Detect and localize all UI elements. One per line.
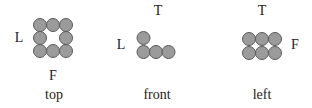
ball <box>269 47 282 60</box>
ball <box>256 33 269 46</box>
ball <box>34 32 47 45</box>
ball <box>137 46 150 59</box>
ball <box>243 33 256 46</box>
ball <box>34 19 47 32</box>
ball <box>60 19 73 32</box>
top-view-left-label: L <box>15 31 24 45</box>
ball <box>256 47 269 60</box>
ball <box>269 33 282 46</box>
top-view-balls <box>34 19 73 58</box>
ball <box>47 45 60 58</box>
ball <box>162 46 175 59</box>
ball <box>243 47 256 60</box>
left-view-top-label: T <box>258 4 267 18</box>
top-view-caption: top <box>45 88 63 102</box>
left-view-front-label: F <box>291 38 299 52</box>
front-view-left-label: L <box>117 38 126 52</box>
front-view-caption: front <box>143 88 170 102</box>
ball <box>150 46 163 59</box>
ball <box>34 45 47 58</box>
ball <box>137 32 150 45</box>
ball <box>60 32 73 45</box>
ball <box>47 19 60 32</box>
left-view-caption: left <box>253 88 272 102</box>
ball <box>60 45 73 58</box>
front-view-balls <box>137 32 175 59</box>
top-view-front-label: F <box>49 69 57 83</box>
front-view-top-label: T <box>154 4 163 18</box>
left-view-balls <box>243 33 282 60</box>
